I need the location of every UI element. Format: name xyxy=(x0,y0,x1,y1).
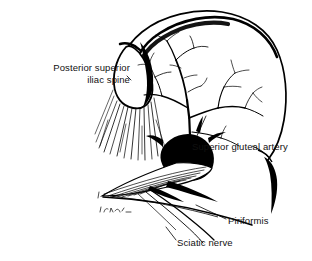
psis-line-2: iliac spine xyxy=(87,74,130,85)
label-superior-gluteal-artery: Superior gluteal artery xyxy=(192,141,288,153)
label-piriformis: Piriformis xyxy=(228,215,269,227)
label-posterior-superior-iliac-spine: Posterior superioriliac spine xyxy=(12,62,130,85)
psis-line-1: Posterior superior xyxy=(53,62,130,73)
illustration-page: Posterior superioriliac spine Superior g… xyxy=(0,0,312,261)
label-sciatic-nerve: Sciatic nerve xyxy=(177,237,233,249)
